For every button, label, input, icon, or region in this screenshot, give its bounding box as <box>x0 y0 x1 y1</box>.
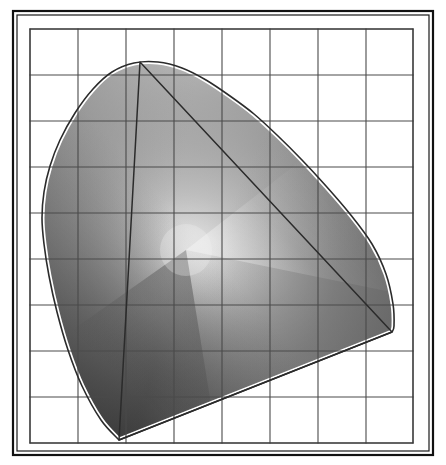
white-point-highlight <box>160 224 212 276</box>
chromaticity-diagram-figure <box>0 0 446 465</box>
chromaticity-chart <box>0 0 446 465</box>
